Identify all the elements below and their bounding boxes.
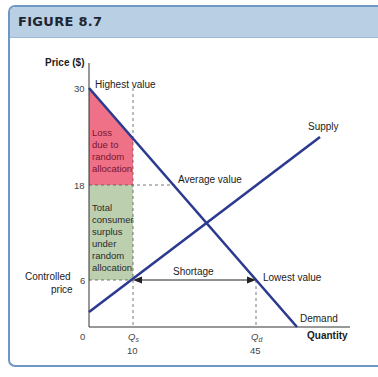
demand-label: Demand	[300, 313, 338, 324]
y-tick-6: 6	[80, 275, 85, 286]
svg-text:Total: Total	[92, 202, 112, 213]
controlled-price-label-2: price	[51, 284, 73, 295]
svg-text:Loss: Loss	[92, 127, 112, 138]
svg-text:allocation: allocation	[92, 262, 132, 273]
qd-value: 45	[250, 345, 261, 356]
lowest-value-label: Lowest value	[263, 272, 322, 283]
svg-text:surplus: surplus	[92, 226, 123, 237]
average-value-label: Average value	[178, 174, 242, 185]
qs-value: 10	[127, 345, 138, 356]
svg-text:consumer: consumer	[92, 214, 134, 225]
svg-text:random: random	[92, 250, 124, 261]
svg-text:under: under	[92, 238, 116, 249]
y-axis-label: Price ($)	[45, 57, 84, 68]
y-tick-18: 18	[74, 180, 85, 191]
controlled-price-label-1: Controlled	[25, 271, 71, 282]
supply-label: Supply	[308, 121, 339, 132]
svg-text:allocation: allocation	[92, 163, 132, 174]
qs-label: Qs	[128, 331, 139, 343]
qd-label: Qd	[251, 331, 263, 343]
shortage-label: Shortage	[173, 266, 214, 277]
svg-text:random: random	[92, 151, 124, 162]
svg-text:due to: due to	[92, 139, 118, 150]
x-tick-0: 0	[80, 331, 85, 342]
highest-value-label: Highest value	[95, 79, 156, 90]
x-axis-label: Quantity	[307, 330, 348, 341]
y-tick-30: 30	[74, 83, 85, 94]
